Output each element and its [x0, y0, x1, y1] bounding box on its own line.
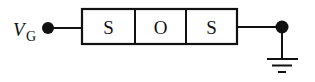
layer-label-semiconductor-right: S — [206, 17, 217, 38]
voltage-symbol: V — [13, 19, 27, 40]
layer-label-oxide: O — [154, 17, 168, 38]
voltage-subscript: G — [26, 29, 36, 44]
ground-icon — [267, 27, 298, 72]
input-voltage-label: V G — [13, 19, 36, 44]
sos-circuit-diagram: V G S O S — [0, 0, 315, 82]
layer-label-semiconductor-left: S — [103, 17, 114, 38]
sos-layer-stack: S O S — [82, 9, 237, 44]
